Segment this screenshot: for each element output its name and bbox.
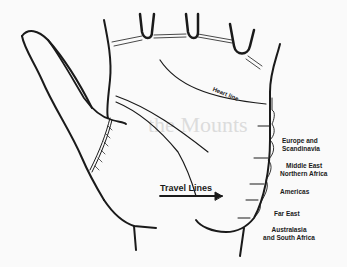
heart-line: [160, 60, 266, 104]
region-label-middle-east: Middle East Northern Africa: [280, 162, 327, 177]
region-label-line: Middle East: [280, 162, 327, 170]
region-label-line: Australasia: [258, 226, 320, 234]
region-label-europe: Europe and Scandinavia: [282, 137, 320, 152]
travel-lines-label: Travel Lines: [160, 183, 212, 193]
finger-2: [186, 14, 198, 38]
region-label-australasia: Australasia and South Africa: [258, 226, 320, 241]
region-label-line: Europe and: [282, 137, 320, 145]
region-label-americas: Americas: [280, 188, 309, 196]
region-label-line: Americas: [280, 188, 309, 196]
finger-1: [140, 14, 154, 38]
palm-diagram: the Mounts: [0, 0, 347, 267]
finger-3: [230, 24, 254, 54]
region-label-line: Northern Africa: [280, 170, 327, 178]
region-label-line: and South Africa: [258, 234, 320, 242]
thumb-outline: [22, 31, 92, 108]
region-label-line: Scandinavia: [282, 145, 320, 153]
region-label-line: Far East: [274, 210, 300, 218]
region-label-far-east: Far East: [274, 210, 300, 218]
